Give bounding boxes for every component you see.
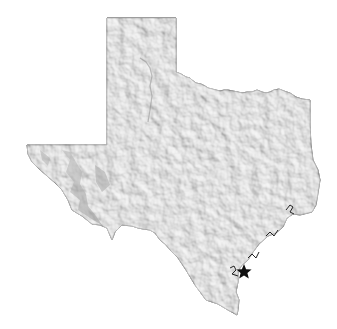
map-canvas — [0, 0, 337, 329]
texas-relief-map: Texas — [0, 0, 337, 329]
